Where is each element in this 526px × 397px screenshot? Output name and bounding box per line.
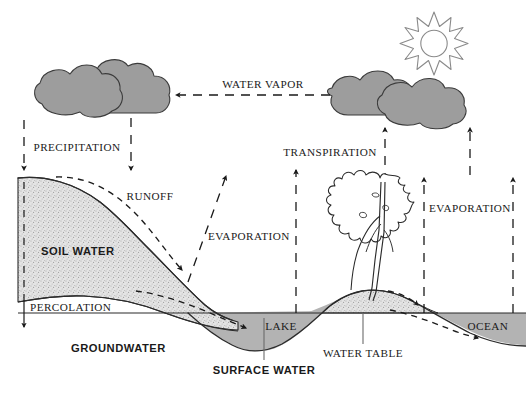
water-cycle-illustration: WATER VAPOR PRECIPITATION TRANSPIRATION (0, 0, 526, 397)
label-ocean: OCEAN (468, 320, 509, 332)
label-soil-water: SOIL WATER (41, 245, 115, 257)
label-water-vapor: WATER VAPOR (222, 78, 303, 90)
water-cycle-diagram: WATER VAPOR PRECIPITATION TRANSPIRATION (0, 0, 526, 397)
label-surface-water: SURFACE WATER (213, 364, 316, 376)
label-transpiration: TRANSPIRATION (283, 146, 377, 158)
label-water-table: WATER TABLE (323, 347, 403, 359)
label-percolation: PERCOLATION (30, 301, 111, 313)
label-evaporation-left: EVAPORATION (208, 230, 290, 242)
label-runoff: RUNOFF (127, 190, 174, 202)
label-precipitation: PRECIPITATION (34, 141, 121, 153)
label-lake: LAKE (265, 320, 297, 332)
label-groundwater: GROUNDWATER (71, 342, 166, 354)
label-evaporation-right: EVAPORATION (429, 202, 511, 214)
